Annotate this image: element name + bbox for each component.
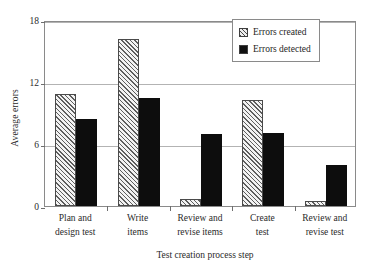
- y-axis-title: Average errors: [10, 58, 20, 178]
- bar-errors-detected: [76, 119, 97, 206]
- gridline: [45, 84, 355, 85]
- y-axis-tick-mark: [41, 146, 45, 147]
- y-axis-tick-label: 12: [15, 79, 39, 89]
- legend-label-errors-created: Errors created: [253, 27, 307, 37]
- x-axis-tick-label-line: Review and: [288, 212, 362, 226]
- legend-item-errors-created: Errors created: [239, 25, 311, 39]
- x-axis-tick-mark: [232, 206, 233, 211]
- x-axis-title: Test creation process step: [44, 250, 366, 260]
- legend-swatch-errors-created-icon: [239, 28, 248, 37]
- y-axis-tick-mark: [41, 84, 45, 85]
- bar-errors-detected: [326, 165, 347, 206]
- y-axis-tick-label: 6: [15, 141, 39, 151]
- bar-errors-created: [305, 201, 326, 206]
- legend-item-errors-detected: Errors detected: [239, 42, 311, 56]
- bar-errors-created: [242, 100, 263, 206]
- x-axis-tick-label-line: revise test: [288, 226, 362, 240]
- bar-errors-detected: [263, 133, 284, 206]
- y-axis-tick-label: 18: [15, 17, 39, 27]
- bar-errors-created: [118, 39, 139, 206]
- legend-label-errors-detected: Errors detected: [253, 44, 311, 54]
- y-axis-tick-mark: [41, 22, 45, 23]
- x-axis-tick-mark: [295, 206, 296, 211]
- y-axis-tick-label: 0: [15, 203, 39, 213]
- chart-legend: Errors created Errors detected: [232, 19, 320, 62]
- x-axis-tick-mark: [170, 206, 171, 211]
- bar-errors-detected: [201, 134, 222, 206]
- bar-chart-figure: Average errors Test creation process ste…: [0, 0, 368, 268]
- bar-errors-created: [55, 94, 76, 206]
- x-axis-tick-label: Review andrevise test: [288, 212, 362, 239]
- legend-swatch-errors-detected-icon: [239, 45, 248, 54]
- x-axis-tick-mark: [107, 206, 108, 211]
- bar-errors-created: [180, 199, 201, 206]
- y-axis-tick-mark: [41, 208, 45, 209]
- bar-errors-detected: [139, 98, 160, 207]
